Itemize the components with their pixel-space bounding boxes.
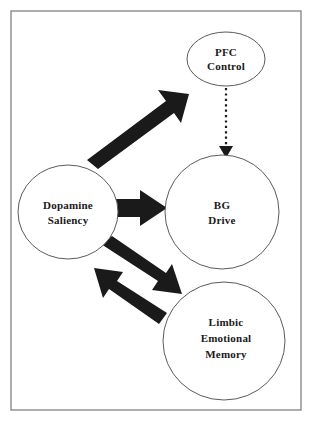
node-dopamine-saliency[interactable]: Dopamine Saliency	[18, 165, 118, 259]
node-pfc-control[interactable]: PFC Control	[187, 32, 265, 86]
node-pfc-control-label-line-1: PFC	[215, 46, 237, 58]
node-bg-drive-label-line-2: Drive	[208, 214, 235, 226]
edge-dopamine-to-bg	[112, 190, 167, 226]
node-bg-drive[interactable]: BG Drive	[165, 155, 279, 269]
node-pfc-control-shape	[187, 32, 265, 86]
edge-pfc-to-bg	[219, 88, 233, 158]
node-bg-drive-shape	[165, 155, 279, 269]
node-dopamine-saliency-shape	[18, 165, 118, 259]
node-pfc-control-label-line-2: Control	[207, 60, 245, 72]
diagram-canvas: PFC Control Dopamine Saliency BG Drive L…	[0, 0, 312, 422]
diagram-svg: PFC Control Dopamine Saliency BG Drive L…	[0, 0, 312, 422]
node-limbic-label-line-2: Emotional	[201, 332, 252, 344]
node-limbic-label-line-1: Limbic	[209, 316, 244, 328]
node-dopamine-saliency-label-line-2: Saliency	[48, 214, 89, 226]
node-limbic-emotional-memory[interactable]: Limbic Emotional Memory	[163, 282, 285, 400]
node-dopamine-saliency-label-line-1: Dopamine	[43, 199, 93, 211]
node-bg-drive-label-line-1: BG	[214, 199, 231, 211]
edge-dopamine-to-pfc	[87, 90, 189, 169]
node-limbic-label-line-3: Memory	[205, 348, 247, 360]
